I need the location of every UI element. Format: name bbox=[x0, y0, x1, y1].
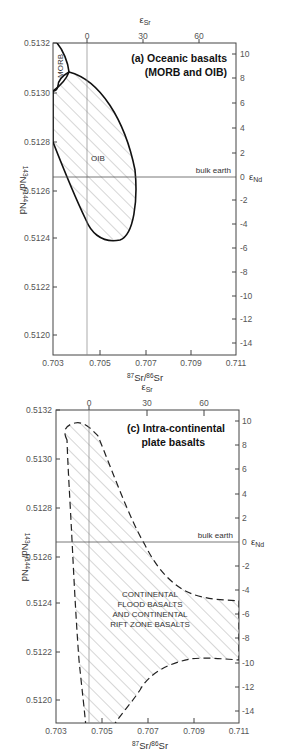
svg-text:0.705: 0.705 bbox=[91, 726, 113, 736]
panel-c-title-line2: plate basalts bbox=[141, 436, 205, 448]
isotope-diagram: εSr 0 30 60 0.5132 0.5130 0.5128 0.5126 … bbox=[0, 0, 281, 755]
svg-text:-10: -10 bbox=[240, 291, 253, 301]
bulk-earth-label: bulk earth bbox=[196, 166, 231, 175]
svg-text:-10: -10 bbox=[242, 658, 255, 668]
svg-text:0.707: 0.707 bbox=[135, 358, 157, 368]
svg-text:60: 60 bbox=[199, 398, 209, 408]
bottom-axis-ticks: 0.703 0.705 0.707 0.709 0.711 bbox=[45, 718, 249, 736]
panel-a-title-line1: (a) Oceanic basalts bbox=[131, 52, 227, 64]
svg-text:-6: -6 bbox=[242, 609, 250, 619]
svg-text:0: 0 bbox=[87, 398, 92, 408]
svg-text:0.5128: 0.5128 bbox=[24, 137, 50, 147]
svg-text:0: 0 bbox=[242, 537, 247, 547]
panel-a-title-line2: (MORB and OIB) bbox=[145, 66, 227, 78]
panel-a-oceanic-basalts: εSr 0 30 60 0.5132 0.5130 0.5128 0.5126 … bbox=[18, 14, 262, 383]
svg-text:-12: -12 bbox=[242, 682, 255, 692]
x-axis-title: 87Sr/86Sr bbox=[132, 740, 168, 751]
svg-text:4: 4 bbox=[242, 489, 247, 499]
panel-c-intracontinental-basalts: εSr 0 30 60 0.5132 0.5130 0.5128 0.5126 … bbox=[20, 381, 264, 751]
y-axis-title: 143Nd/144Nd bbox=[20, 533, 31, 582]
bulk-earth-label: bulk earth bbox=[198, 531, 233, 540]
top-axis-ticks: 0 30 60 bbox=[85, 31, 204, 43]
top-axis-ticks: 0 30 60 bbox=[87, 398, 209, 416]
svg-text:-6: -6 bbox=[240, 243, 248, 253]
svg-text:0.711: 0.711 bbox=[226, 358, 247, 368]
continental-basalts-label: CONTINENTAL FLOOD BASALTS AND CONTINENTA… bbox=[110, 590, 190, 629]
svg-text:0.5130: 0.5130 bbox=[26, 454, 52, 464]
svg-text:0.5122: 0.5122 bbox=[26, 647, 52, 657]
svg-text:10: 10 bbox=[240, 49, 250, 59]
morb-label: MORB bbox=[56, 54, 65, 78]
svg-text:4: 4 bbox=[240, 123, 245, 133]
svg-text:60: 60 bbox=[194, 31, 204, 41]
continental-basalts-region bbox=[65, 423, 239, 728]
svg-text:30: 30 bbox=[138, 31, 148, 41]
y-axis-title: 143Nd/144Nd bbox=[18, 166, 29, 215]
svg-text:8: 8 bbox=[240, 73, 245, 83]
svg-text:0.703: 0.703 bbox=[45, 726, 67, 736]
svg-text:0.5132: 0.5132 bbox=[24, 38, 50, 48]
panel-c-title-line1: (c) Intra-continental bbox=[127, 422, 225, 434]
svg-text:-2: -2 bbox=[242, 561, 250, 571]
svg-text:-8: -8 bbox=[240, 267, 248, 277]
svg-text:0.5130: 0.5130 bbox=[24, 88, 50, 98]
svg-text:0.711: 0.711 bbox=[229, 726, 250, 736]
svg-text:6: 6 bbox=[242, 464, 247, 474]
svg-text:AND CONTINENTAL: AND CONTINENTAL bbox=[113, 610, 189, 619]
svg-text:0.5128: 0.5128 bbox=[26, 503, 52, 513]
svg-text:-4: -4 bbox=[242, 585, 250, 595]
svg-text:30: 30 bbox=[142, 398, 152, 408]
svg-text:8: 8 bbox=[242, 440, 247, 450]
svg-text:10: 10 bbox=[242, 416, 252, 426]
svg-text:0.707: 0.707 bbox=[137, 726, 159, 736]
svg-text:6: 6 bbox=[240, 98, 245, 108]
svg-text:0.5124: 0.5124 bbox=[26, 598, 52, 608]
right-axis-title: εNd bbox=[251, 536, 264, 548]
svg-text:-4: -4 bbox=[240, 219, 248, 229]
svg-text:-14: -14 bbox=[242, 706, 255, 716]
svg-text:CONTINENTAL: CONTINENTAL bbox=[122, 590, 178, 599]
top-axis-title: εSr bbox=[139, 14, 151, 26]
bottom-axis-ticks: 0.703 0.705 0.707 0.709 0.711 bbox=[42, 350, 246, 368]
svg-text:RIFT ZONE BASALTS: RIFT ZONE BASALTS bbox=[110, 620, 190, 629]
svg-text:-14: -14 bbox=[240, 338, 253, 348]
svg-text:2: 2 bbox=[240, 148, 245, 158]
svg-text:0.5132: 0.5132 bbox=[26, 405, 52, 415]
svg-text:0.709: 0.709 bbox=[183, 726, 205, 736]
oib-label: OIB bbox=[91, 154, 105, 163]
svg-text:-12: -12 bbox=[240, 314, 253, 324]
right-axis-title: εNd bbox=[249, 171, 262, 183]
svg-text:2: 2 bbox=[242, 513, 247, 523]
top-axis-title: εSr bbox=[141, 381, 153, 393]
svg-text:0.703: 0.703 bbox=[42, 358, 64, 368]
svg-text:0: 0 bbox=[240, 172, 245, 182]
svg-text:0: 0 bbox=[85, 31, 90, 41]
svg-text:-8: -8 bbox=[242, 633, 250, 643]
svg-text:FLOOD BASALTS: FLOOD BASALTS bbox=[117, 600, 182, 609]
svg-text:0.5120: 0.5120 bbox=[26, 695, 52, 705]
right-axis-ticks: 10 8 6 4 2 0 εNd -2 -4 -6 -8 -10 -12 -14 bbox=[232, 49, 262, 348]
svg-text:0.5122: 0.5122 bbox=[24, 282, 50, 292]
svg-text:0.5124: 0.5124 bbox=[24, 233, 50, 243]
svg-text:0.709: 0.709 bbox=[180, 358, 202, 368]
svg-text:0.5120: 0.5120 bbox=[24, 330, 50, 340]
svg-text:0.705: 0.705 bbox=[89, 358, 111, 368]
svg-text:-2: -2 bbox=[240, 195, 248, 205]
